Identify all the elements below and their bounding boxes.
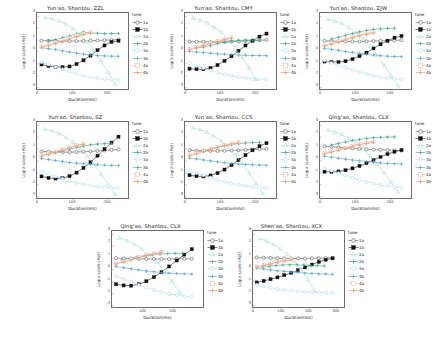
legend-label: 3b bbox=[291, 164, 296, 171]
legend-item-1a[interactable]: 1a bbox=[415, 19, 431, 26]
x-tick-label: 0 bbox=[184, 91, 186, 95]
legend-item-3b[interactable]: 3b bbox=[415, 163, 431, 170]
legend-item-1a[interactable]: 1a bbox=[348, 237, 364, 244]
legend-item-3a[interactable]: 3a bbox=[280, 47, 296, 54]
legend-item-2b[interactable]: 2b bbox=[280, 40, 296, 47]
legend-item-3a[interactable]: 3a bbox=[132, 156, 148, 163]
legend-item-3b[interactable]: 3b bbox=[132, 163, 148, 170]
y-axis-label: Log(z-score-(Hz)) bbox=[168, 12, 175, 90]
legend-item-4b[interactable]: 4b bbox=[280, 178, 296, 185]
legend-marker-plus-icon bbox=[132, 149, 143, 156]
legend-item-2a[interactable]: 2a bbox=[132, 142, 148, 149]
legend: tone1a1b2a2b3a3b4a4b bbox=[204, 230, 223, 320]
legend-item-4b[interactable]: 4b bbox=[207, 287, 223, 294]
legend-label: 1a bbox=[426, 128, 431, 135]
legend-item-3a[interactable]: 3a bbox=[348, 265, 364, 272]
legend-item-4b[interactable]: 4b bbox=[415, 178, 431, 185]
x-axis-ticks: 0100200 bbox=[184, 199, 277, 206]
x-tick-label: 200 bbox=[387, 91, 394, 95]
legend-item-1a[interactable]: 1a bbox=[280, 128, 296, 135]
legend-item-3b[interactable]: 3b bbox=[415, 54, 431, 61]
legend-item-3b[interactable]: 3b bbox=[348, 272, 364, 279]
legend-item-1a[interactable]: 1a bbox=[132, 19, 148, 26]
legend-item-4b[interactable]: 4b bbox=[132, 69, 148, 76]
legend-label: 3b bbox=[359, 273, 364, 280]
y-tick-label: 0 bbox=[243, 266, 251, 270]
legend-item-2b[interactable]: 2b bbox=[132, 40, 148, 47]
legend-item-3a[interactable]: 3a bbox=[280, 156, 296, 163]
legend-item-4a[interactable]: 4a bbox=[280, 171, 296, 178]
legend-label: 2a bbox=[218, 251, 223, 258]
legend-marker-open-triangle-icon bbox=[207, 251, 218, 258]
legend-item-4b[interactable]: 4b bbox=[280, 69, 296, 76]
legend-item-1a[interactable]: 1a bbox=[132, 128, 148, 135]
legend-item-2a[interactable]: 2a bbox=[415, 33, 431, 40]
legend-label: 1b bbox=[359, 244, 364, 251]
x-tick-label: 0 bbox=[36, 200, 38, 204]
legend-item-2a[interactable]: 2a bbox=[348, 251, 364, 258]
legend-item-4a[interactable]: 4a bbox=[415, 62, 431, 69]
legend-item-2b[interactable]: 2b bbox=[132, 149, 148, 156]
y-axis-ticks: 3210-1-2-3 bbox=[310, 121, 319, 199]
legend-item-4a[interactable]: 4a bbox=[207, 280, 223, 287]
legend-item-3a[interactable]: 3a bbox=[207, 265, 223, 272]
legend-item-3b[interactable]: 3b bbox=[280, 54, 296, 61]
y-axis-ticks: 3210-1-2-3 bbox=[102, 230, 111, 308]
legend-item-1b[interactable]: 1b bbox=[348, 244, 364, 251]
legend-item-2b[interactable]: 2b bbox=[207, 258, 223, 265]
legend-marker-plus-icon bbox=[348, 287, 359, 294]
legend-item-4b[interactable]: 4b bbox=[132, 178, 148, 185]
legend-item-1b[interactable]: 1b bbox=[207, 244, 223, 251]
x-tick-label: 200 bbox=[387, 200, 394, 204]
legend-item-2a[interactable]: 2a bbox=[132, 33, 148, 40]
legend-item-2a[interactable]: 2a bbox=[280, 142, 296, 149]
legend-item-1a[interactable]: 1a bbox=[207, 237, 223, 244]
legend-item-1b[interactable]: 1b bbox=[132, 135, 148, 142]
legend-item-2a[interactable]: 2a bbox=[415, 142, 431, 149]
legend-label: 3b bbox=[143, 55, 148, 62]
legend-item-1b[interactable]: 1b bbox=[280, 135, 296, 142]
legend-item-3a[interactable]: 3a bbox=[415, 156, 431, 163]
legend-item-1a[interactable]: 1a bbox=[280, 19, 296, 26]
legend-item-4a[interactable]: 4a bbox=[132, 171, 148, 178]
legend-item-4b[interactable]: 4b bbox=[348, 287, 364, 294]
legend-item-2b[interactable]: 2b bbox=[415, 40, 431, 47]
y-tick-label: 3 bbox=[310, 10, 318, 14]
legend-item-3a[interactable]: 3a bbox=[132, 47, 148, 54]
legend-label: 1a bbox=[291, 19, 296, 26]
legend-item-2b[interactable]: 2b bbox=[348, 258, 364, 265]
legend-label: 3a bbox=[218, 265, 223, 272]
legend-item-1b[interactable]: 1b bbox=[415, 26, 431, 33]
legend: tone1a1b2a2b3a3b4a4b bbox=[345, 230, 364, 320]
legend-item-1b[interactable]: 1b bbox=[415, 135, 431, 142]
legend-label: 3a bbox=[143, 47, 148, 54]
legend-item-3a[interactable]: 3a bbox=[415, 47, 431, 54]
legend-marker-open-circle-icon bbox=[415, 156, 426, 163]
legend-marker-plus-icon bbox=[132, 178, 143, 185]
legend-marker-open-circle-icon bbox=[415, 19, 426, 26]
legend-item-3b[interactable]: 3b bbox=[132, 54, 148, 61]
legend-item-2a[interactable]: 2a bbox=[207, 251, 223, 258]
x-tick-label: 200 bbox=[169, 309, 176, 313]
legend-item-4a[interactable]: 4a bbox=[280, 62, 296, 69]
legend-label: 2a bbox=[426, 142, 431, 149]
legend-item-4a[interactable]: 4a bbox=[415, 171, 431, 178]
legend-item-1b[interactable]: 1b bbox=[132, 26, 148, 33]
legend-item-4a[interactable]: 4a bbox=[348, 280, 364, 287]
legend: tone1a1b2a2b3a3b4a4b bbox=[277, 121, 296, 211]
legend-item-2a[interactable]: 2a bbox=[280, 33, 296, 40]
legend-item-4b[interactable]: 4b bbox=[415, 69, 431, 76]
legend-item-2b[interactable]: 2b bbox=[415, 149, 431, 156]
legend-marker-plus-icon bbox=[415, 149, 426, 156]
panel-title: Yun'ao, Shantou, SZ bbox=[20, 113, 131, 121]
legend-item-2b[interactable]: 2b bbox=[280, 149, 296, 156]
legend-item-1a[interactable]: 1a bbox=[415, 128, 431, 135]
y-tick-label: 0 bbox=[310, 48, 318, 52]
legend-item-1b[interactable]: 1b bbox=[280, 26, 296, 33]
legend-item-3b[interactable]: 3b bbox=[207, 272, 223, 279]
legend-label: 1b bbox=[218, 244, 223, 251]
x-axis-ticks: 0100200 bbox=[36, 90, 129, 97]
legend-item-4a[interactable]: 4a bbox=[132, 62, 148, 69]
legend-item-3b[interactable]: 3b bbox=[280, 163, 296, 170]
legend-marker-plus-icon bbox=[415, 178, 426, 185]
